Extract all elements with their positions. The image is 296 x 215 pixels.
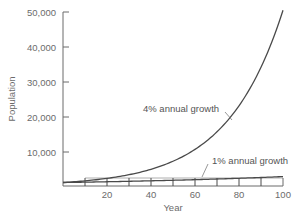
annotation-1pct-leader — [202, 164, 208, 177]
annotation-4pct: 4% annual growth — [143, 103, 219, 114]
x-tick-labels: 20 40 60 80 100 — [102, 189, 291, 200]
y-tick-label: 40,000 — [27, 42, 56, 53]
x-tick-label: 60 — [190, 189, 201, 200]
x-tick-label: 100 — [275, 189, 291, 200]
y-tick-label: 20,000 — [27, 112, 56, 123]
y-tick-labels: 50,000 40,000 30,000 20,000 10,000 — [27, 7, 56, 158]
x-axis-title: Year — [163, 202, 182, 213]
x-tick-label: 40 — [146, 189, 157, 200]
y-axis-title: Population — [6, 77, 17, 122]
x-tick-label: 20 — [102, 189, 113, 200]
annotation-1pct: 1% annual growth — [212, 155, 288, 166]
x-tick-label: 80 — [234, 189, 245, 200]
y-tick-label: 30,000 — [27, 77, 56, 88]
population-growth-chart: 50,000 40,000 30,000 20,000 10,000 Popul… — [0, 0, 296, 215]
y-tick-label: 10,000 — [27, 147, 56, 158]
y-tick-label: 50,000 — [27, 7, 56, 18]
y-ticks — [63, 12, 69, 152]
